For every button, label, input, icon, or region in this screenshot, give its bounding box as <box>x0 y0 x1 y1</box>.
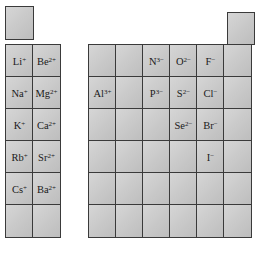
ion-cell <box>142 172 171 206</box>
ion-cell <box>115 140 144 174</box>
ion-cell <box>142 204 171 238</box>
ion-cell: K+ <box>5 108 34 142</box>
ion-symbol: Cs <box>12 184 23 195</box>
ion-symbol: Mg <box>35 88 50 99</box>
ion-cell: Al3+ <box>88 76 117 110</box>
ion-cell: I− <box>196 140 225 174</box>
ion-symbol: Al <box>94 88 105 99</box>
ion-cell: Se2− <box>169 108 198 142</box>
ion-cell <box>5 204 34 238</box>
ion-cell <box>115 44 144 78</box>
ion-cell <box>32 204 61 238</box>
ion-cell <box>115 108 144 142</box>
ion-cell <box>88 172 117 206</box>
ion-cell <box>169 172 198 206</box>
ion-cell <box>115 204 144 238</box>
ion-symbol: Br <box>203 120 214 131</box>
ion-symbol: Ca <box>37 120 49 131</box>
ion-symbol: Li <box>13 56 22 67</box>
ion-cell <box>223 140 252 174</box>
ion-cell: Ba2+ <box>32 172 61 206</box>
ion-cell: Be2+ <box>32 44 61 78</box>
ion-cell: Ca2+ <box>32 108 61 142</box>
ion-cell: Na+ <box>5 76 34 110</box>
ion-cell <box>169 140 198 174</box>
ion-symbol: Rb <box>11 152 23 163</box>
ion-cell: Rb+ <box>5 140 34 174</box>
ion-cell: F− <box>196 44 225 78</box>
ion-cell <box>142 108 171 142</box>
ion-cell <box>115 76 144 110</box>
ion-cell <box>88 140 117 174</box>
ion-cell <box>223 108 252 142</box>
ion-cell <box>223 204 252 238</box>
ion-cell: Cl− <box>196 76 225 110</box>
ion-cell <box>115 172 144 206</box>
ion-symbol: N <box>149 56 157 67</box>
ion-cell <box>142 140 171 174</box>
ion-cell <box>169 204 198 238</box>
ion-symbol: Be <box>37 56 49 67</box>
ion-symbol: Se <box>175 120 186 131</box>
ion-cell <box>223 172 252 206</box>
ion-symbol: Cl <box>204 88 214 99</box>
right-top-cell <box>227 12 255 45</box>
ion-cell <box>196 172 225 206</box>
ion-symbol: Na <box>11 88 23 99</box>
ion-cell: Cs+ <box>5 172 34 206</box>
ion-cell: O2− <box>169 44 198 78</box>
ion-cell <box>88 108 117 142</box>
ion-symbol: K <box>14 120 22 131</box>
ion-cell: P3− <box>142 76 171 110</box>
left-top-cell <box>5 6 34 40</box>
ion-symbol: Sr <box>38 152 47 163</box>
ion-cell: Br− <box>196 108 225 142</box>
ion-symbol: O <box>176 56 184 67</box>
ion-cell <box>88 44 117 78</box>
ion-cell: S2− <box>169 76 198 110</box>
ion-symbol: P <box>150 88 156 99</box>
ion-cell: Sr2+ <box>32 140 61 174</box>
ion-cell <box>196 204 225 238</box>
ion-cell: Mg2+ <box>32 76 61 110</box>
ion-symbol: S <box>177 88 183 99</box>
ion-cell <box>223 76 252 110</box>
ion-cell: Li+ <box>5 44 34 78</box>
ion-cell <box>88 204 117 238</box>
ion-symbol: Ba <box>37 184 49 195</box>
ion-cell <box>223 44 252 78</box>
ion-cell: N3− <box>142 44 171 78</box>
